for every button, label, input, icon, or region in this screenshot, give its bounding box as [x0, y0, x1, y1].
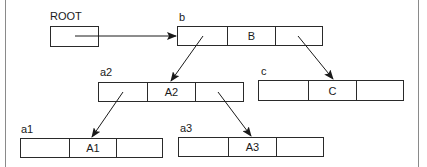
node-a3-label: a3 — [180, 123, 192, 134]
node-a1-label: a1 — [21, 124, 33, 135]
node-a3-left-pointer — [179, 138, 228, 156]
node-c: C — [258, 80, 404, 101]
node-c-value: C — [308, 81, 356, 100]
node-b-value: B — [227, 27, 275, 45]
root-label: ROOT — [50, 11, 82, 22]
frame-right-border — [418, 0, 419, 167]
node-a2-label: a2 — [100, 67, 112, 78]
node-b-left-pointer — [178, 27, 227, 45]
node-b-label: b — [179, 12, 185, 23]
node-a2: A2 — [98, 82, 244, 102]
node-b: B — [177, 26, 323, 46]
node-a2-left-pointer — [99, 83, 147, 101]
root-pointer-box — [50, 26, 99, 47]
node-a3: A3 — [178, 137, 324, 157]
node-a2-value: A2 — [147, 83, 195, 101]
node-c-left-pointer — [259, 81, 308, 100]
node-c-right-pointer — [356, 81, 403, 100]
node-a1-left-pointer — [21, 139, 69, 157]
node-a1: A1 — [20, 138, 163, 158]
node-b-right-pointer — [275, 27, 322, 45]
node-a1-value: A1 — [69, 139, 116, 157]
node-a3-right-pointer — [276, 138, 323, 156]
frame-left-border — [5, 0, 6, 167]
node-a1-right-pointer — [116, 139, 162, 157]
node-a3-value: A3 — [228, 138, 276, 156]
node-a2-right-pointer — [195, 83, 243, 101]
node-c-label: c — [261, 66, 267, 77]
